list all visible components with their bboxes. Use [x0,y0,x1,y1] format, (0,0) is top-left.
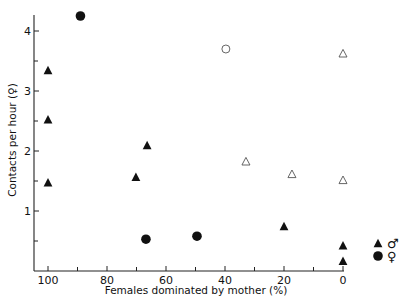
open-circle-point [222,45,230,53]
scatter-chart: 1008060402001234 Females dominated by mo… [0,0,406,307]
filled-triangle-point [132,173,141,181]
filled-triangle-point [143,141,152,149]
y-tick-label: 2 [24,145,31,158]
open-triangle-point [288,170,296,178]
y-tick-label: 4 [24,25,31,38]
legend-label: ♀ [387,249,397,264]
y-tick-label: 3 [24,85,31,98]
y-tick-label: 1 [24,205,31,218]
open-triangle-point [242,157,250,165]
filled-triangle-point [339,241,348,249]
x-tick-label: 100 [38,274,59,287]
filled-circle-point [192,231,202,241]
filled-triangle-point [280,222,289,230]
filled-triangle-point [44,178,53,186]
legend-circle-icon [373,251,383,261]
filled-triangle-point [44,115,53,123]
filled-triangle-point [44,66,53,74]
open-triangle-point [339,49,347,57]
filled-circle-point [141,234,151,244]
legend: ♂♀ [373,236,398,264]
x-axis-title: Females dominated by mother (%) [105,284,288,296]
legend-triangle-icon [374,239,383,247]
filled-circle-point [76,11,86,21]
axes: 1008060402001234 [24,15,347,287]
data-points [44,11,348,265]
x-tick-label: 0 [340,274,347,287]
y-axis-title: Contacts per hour (♀) [6,83,18,197]
filled-triangle-point [339,257,348,265]
open-triangle-point [339,176,347,184]
